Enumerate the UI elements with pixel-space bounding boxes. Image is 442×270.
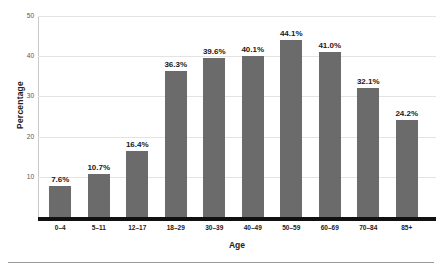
bar <box>88 174 110 217</box>
bar <box>396 120 418 217</box>
bar <box>165 71 187 217</box>
bottom-divider <box>8 262 434 263</box>
x-tick-label: 5–11 <box>80 224 119 231</box>
bar <box>203 58 225 217</box>
x-tick-label: 60–69 <box>311 224 350 231</box>
plot-area: 1020304050 7.6%10.7%16.4%36.3%39.6%40.1%… <box>38 16 436 218</box>
bar-value-label: 32.1% <box>357 78 380 86</box>
x-tick-label: 12–17 <box>118 224 157 231</box>
x-tick-label: 40–49 <box>234 224 273 231</box>
bar <box>319 52 341 217</box>
bar <box>280 40 302 217</box>
bar <box>126 151 148 217</box>
bar-value-label: 40.1% <box>241 46 264 54</box>
x-axis-tick-labels: 0–45–1112–1718–2930–3940–4950–5960–6970–… <box>38 224 436 238</box>
bar-value-label: 36.3% <box>164 61 187 69</box>
x-axis-baseline <box>38 217 436 221</box>
x-tick-label: 0–4 <box>41 224 80 231</box>
bars-layer: 7.6%10.7%16.4%36.3%39.6%40.1%44.1%41.0%3… <box>38 16 436 217</box>
x-tick-label: 18–29 <box>157 224 196 231</box>
y-tick-label: 50 <box>27 13 34 20</box>
y-tick-label: 20 <box>27 133 34 140</box>
bar-value-label: 39.6% <box>203 48 226 56</box>
bar-group: 16.4% <box>118 16 157 217</box>
bar-chart: Percentage 1020304050 7.6%10.7%16.4%36.3… <box>0 0 442 270</box>
x-tick-label: 30–39 <box>195 224 234 231</box>
x-axis-title: Age <box>38 240 436 250</box>
y-axis-title: Percentage <box>15 55 25 155</box>
bar-value-label: 7.6% <box>51 176 69 184</box>
bar <box>357 88 379 217</box>
x-tick-label: 85+ <box>388 224 427 231</box>
y-tick-label: 30 <box>27 93 34 100</box>
x-tick-label: 70–84 <box>349 224 388 231</box>
bar-value-label: 41.0% <box>318 42 341 50</box>
bar-value-label: 44.1% <box>280 30 303 38</box>
bar-group: 36.3% <box>157 16 196 217</box>
bar <box>242 56 264 217</box>
bar-value-label: 10.7% <box>87 164 110 172</box>
bar-group: 24.2% <box>388 16 427 217</box>
bar-value-label: 16.4% <box>126 141 149 149</box>
bar-group: 39.6% <box>195 16 234 217</box>
y-tick-label: 40 <box>27 53 34 60</box>
bar-group: 40.1% <box>234 16 273 217</box>
bar <box>49 186 71 217</box>
bar-group: 32.1% <box>349 16 388 217</box>
bar-value-label: 24.2% <box>395 110 418 118</box>
bar-group: 44.1% <box>272 16 311 217</box>
y-tick-label: 10 <box>27 174 34 181</box>
bar-group: 7.6% <box>41 16 80 217</box>
bar-group: 10.7% <box>80 16 119 217</box>
x-tick-label: 50–59 <box>272 224 311 231</box>
bar-group: 41.0% <box>311 16 350 217</box>
